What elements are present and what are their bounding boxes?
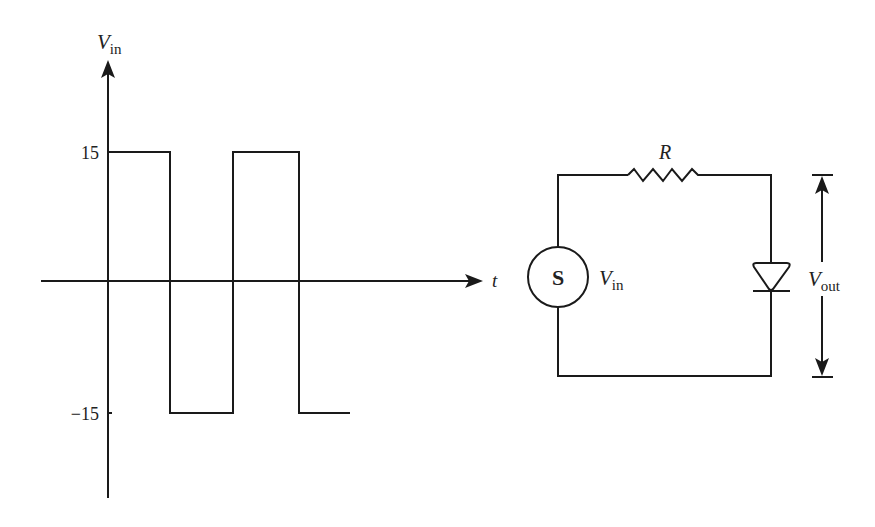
diagram: Vin 15 −15 t R S xyxy=(0,0,875,527)
source-voltage-label: Vin xyxy=(599,266,624,293)
wire-right-bottom xyxy=(558,291,771,376)
source-label: S xyxy=(552,265,564,290)
resistor-label: R xyxy=(658,141,671,163)
circuit xyxy=(528,169,833,377)
output-voltage-label: Vout xyxy=(808,267,841,294)
y-axis-label: Vin xyxy=(97,30,122,57)
wire-top-left xyxy=(558,175,628,247)
square-wave xyxy=(108,152,350,413)
resistor-icon xyxy=(628,169,703,181)
tick-label-high: 15 xyxy=(81,143,99,163)
waveform-plot xyxy=(41,60,483,498)
wire-top-right xyxy=(703,175,771,263)
tick-label-low: −15 xyxy=(71,404,99,424)
x-axis-label: t xyxy=(492,270,498,291)
diode-icon xyxy=(753,263,789,290)
